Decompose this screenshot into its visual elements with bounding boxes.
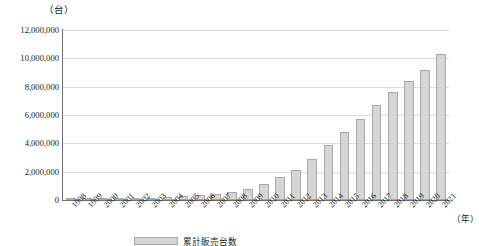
bar-slot — [324, 30, 334, 200]
bar-slot — [259, 30, 269, 200]
bar-slot — [436, 30, 446, 200]
bar-slot — [372, 30, 382, 200]
bar — [420, 70, 430, 200]
bar-slot — [98, 30, 108, 200]
x-axis-unit-label: （年） — [452, 212, 479, 224]
bar-slot — [356, 30, 366, 200]
y-tick-label: 4,000,000 — [25, 139, 59, 148]
bar-slot — [388, 30, 398, 200]
bar-slot — [291, 30, 301, 200]
bar-slot — [195, 30, 205, 200]
bar-slot — [227, 30, 237, 200]
y-tick-label: 0 — [55, 196, 59, 205]
x-axis-tick-labels: 1998199920002001200220032004200520062007… — [63, 201, 449, 243]
bar — [340, 132, 350, 200]
bar — [372, 105, 382, 200]
bar-slot — [307, 30, 317, 200]
bar-slot — [66, 30, 76, 200]
bar-slot — [275, 30, 285, 200]
bar-slot — [163, 30, 173, 200]
bar-slot — [131, 30, 141, 200]
y-tick-label: 10,000,000 — [20, 54, 59, 63]
y-tick-label: 12,000,000 — [20, 26, 59, 35]
y-axis-tick-labels: 02,000,0004,000,0006,000,0008,000,00010,… — [0, 0, 59, 243]
bar — [324, 145, 334, 200]
legend-swatch — [134, 237, 178, 245]
bar-slot — [340, 30, 350, 200]
bar-slot — [404, 30, 414, 200]
bar-slot — [243, 30, 253, 200]
bar-slot — [179, 30, 189, 200]
y-tick-label: 6,000,000 — [25, 111, 59, 120]
y-tick-label: 2,000,000 — [25, 168, 59, 177]
bar-slot — [420, 30, 430, 200]
bar — [404, 81, 414, 200]
chart-legend: 累計販売台数 — [134, 236, 237, 246]
bar — [356, 119, 366, 200]
bar-slot — [211, 30, 221, 200]
bar-series — [63, 30, 449, 200]
bar-slot — [82, 30, 92, 200]
bar — [388, 92, 398, 200]
legend-label: 累計販売台数 — [183, 236, 237, 246]
bar-slot — [147, 30, 157, 200]
bar-slot — [114, 30, 124, 200]
y-tick-label: 8,000,000 — [25, 83, 59, 92]
bar — [436, 54, 446, 200]
